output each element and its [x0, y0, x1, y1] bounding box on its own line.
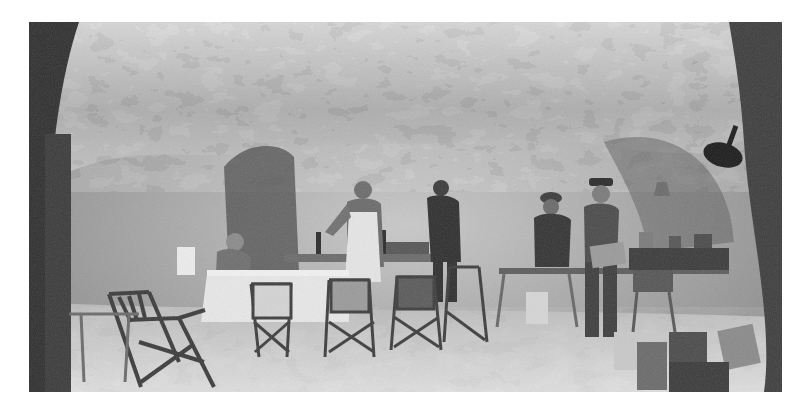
photograph: Interior of a rock-cut cave used as a me…: [29, 22, 782, 392]
cave-mess-scene: [29, 22, 782, 392]
film-grain: [29, 22, 782, 392]
